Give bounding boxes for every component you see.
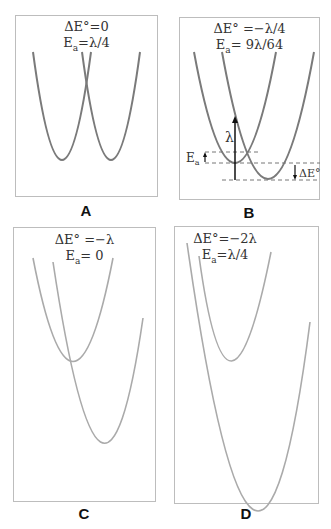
panel-d-frame	[174, 226, 319, 504]
panel-b-label: B	[234, 204, 264, 221]
panel-b-delta-e: ΔE° =−λ/4	[179, 21, 320, 37]
panel-c-delta-e: ΔE° =−λ	[13, 232, 156, 248]
panel-a-delta-e: ΔE°=0	[15, 19, 158, 35]
panel-a-label: A	[71, 202, 101, 219]
panel-d-label: D	[231, 505, 261, 522]
panel-a-equations: ΔE°=0 Ea=λ/4	[15, 19, 158, 56]
panel-c-equations: ΔE° =−λ Ea= 0	[13, 232, 156, 269]
panel-d-delta-e: ΔE°=−2λ	[170, 231, 280, 247]
panel-b-equations: ΔE° =−λ/4 Ea= 9λ/64	[179, 21, 320, 58]
panel-d-equations: ΔE°=−2λ Ea=λ/4	[170, 231, 280, 268]
panel-d-ea: Ea=λ/4	[170, 247, 280, 268]
panel-b-ea: Ea= 9λ/64	[179, 37, 320, 58]
panel-a-ea: Ea=λ/4	[15, 35, 158, 56]
panel-c-ea: Ea= 0	[13, 248, 156, 269]
panel-c-label: C	[69, 505, 99, 522]
